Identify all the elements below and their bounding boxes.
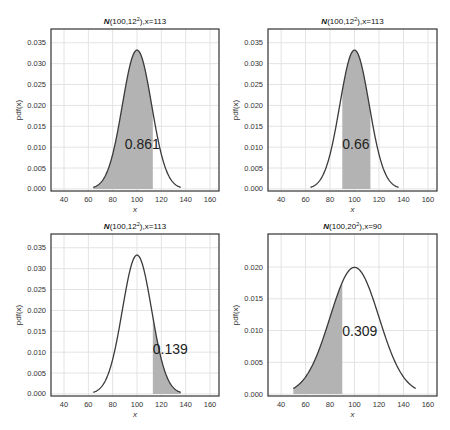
- y-tick-label: 0.020: [27, 306, 46, 315]
- x-tick-label: 80: [326, 195, 334, 204]
- chart-panel-3: 4060801001201401600.0000.0050.0100.0150.…: [14, 221, 219, 419]
- title-tail: ),x=90: [359, 222, 382, 231]
- y-tick-label: 0.005: [27, 164, 46, 173]
- title-tail: ),x=113: [140, 222, 167, 231]
- x-axis-label: x: [132, 205, 138, 214]
- y-tick-label: 0.025: [27, 285, 46, 294]
- axes-frame: [268, 234, 437, 396]
- x-tick-label: 160: [204, 195, 217, 204]
- x-tick-label: 120: [155, 400, 168, 409]
- y-tick-label: 0.005: [244, 164, 263, 173]
- chart-panel-2: 4060801001201401600.0000.0050.0100.0150.…: [231, 16, 437, 214]
- y-axis-label: pdf(x): [14, 99, 23, 120]
- x-axis-label: x: [350, 410, 356, 419]
- y-tick-label: 0.000: [244, 184, 263, 193]
- y-tick-label: 0.025: [244, 80, 263, 89]
- x-tick-label: 140: [179, 195, 192, 204]
- title-tail: ),x=113: [140, 17, 167, 26]
- figure: 4060801001201401600.0000.0050.0100.0150.…: [0, 0, 450, 430]
- x-tick-label: 120: [155, 195, 168, 204]
- y-tick-label: 0.010: [27, 348, 46, 357]
- y-tick-label: 0.000: [244, 390, 263, 399]
- chart-title: N(100,122),x=113: [104, 16, 167, 26]
- y-tick-label: 0.035: [244, 38, 263, 47]
- x-tick-label: 40: [60, 400, 68, 409]
- x-tick-label: 160: [422, 400, 435, 409]
- chart-panel-4: 4060801001201401600.0000.0050.0100.0150.…: [231, 221, 437, 419]
- chart-title: N(100,202),x=90: [323, 221, 382, 231]
- x-tick-label: 40: [277, 400, 285, 409]
- x-tick-label: 160: [422, 195, 435, 204]
- x-axis-label: x: [132, 410, 138, 419]
- y-tick-label: 0.035: [27, 243, 46, 252]
- x-tick-label: 80: [109, 400, 117, 409]
- title-args: (100,20: [329, 222, 357, 231]
- y-axis-label: pdf(x): [14, 304, 23, 325]
- y-tick-label: 0.030: [27, 59, 46, 68]
- y-tick-label: 0.010: [244, 326, 263, 335]
- title-args: (100,12: [327, 17, 355, 26]
- x-tick-label: 160: [204, 400, 217, 409]
- y-tick-label: 0.010: [244, 143, 263, 152]
- probability-annotation: 0.309: [342, 323, 377, 339]
- y-axis-label: pdf(x): [231, 99, 240, 120]
- x-tick-label: 120: [373, 400, 386, 409]
- y-tick-label: 0.015: [244, 294, 263, 303]
- chart-grid-2x2: 4060801001201401600.0000.0050.0100.0150.…: [0, 0, 450, 430]
- chart-title: N(100,122),x=113: [104, 221, 167, 231]
- x-tick-label: 140: [179, 400, 192, 409]
- axes-frame: [51, 234, 219, 396]
- x-axis-label: x: [350, 205, 356, 214]
- y-tick-label: 0.015: [27, 327, 46, 336]
- y-tick-label: 0.015: [244, 122, 263, 131]
- y-tick-label: 0.005: [27, 369, 46, 378]
- y-tick-label: 0.000: [27, 389, 46, 398]
- y-tick-label: 0.005: [244, 358, 263, 367]
- y-tick-label: 0.015: [27, 122, 46, 131]
- title-args: (100,12: [110, 17, 138, 26]
- x-tick-label: 80: [109, 195, 117, 204]
- y-tick-label: 0.010: [27, 143, 46, 152]
- x-tick-label: 60: [301, 195, 309, 204]
- y-axis-label: pdf(x): [231, 304, 240, 325]
- x-tick-label: 100: [348, 400, 361, 409]
- x-tick-label: 140: [397, 400, 410, 409]
- y-tick-label: 0.020: [27, 101, 46, 110]
- title-tail: ),x=113: [357, 17, 384, 26]
- y-tick-label: 0.030: [27, 264, 46, 273]
- y-tick-label: 0.020: [244, 101, 263, 110]
- x-tick-label: 60: [84, 195, 92, 204]
- probability-annotation: 0.861: [125, 136, 160, 152]
- probability-annotation: 0.66: [342, 136, 369, 152]
- x-tick-label: 100: [348, 195, 361, 204]
- x-tick-label: 40: [277, 195, 285, 204]
- x-tick-label: 120: [373, 195, 386, 204]
- x-tick-label: 100: [131, 400, 144, 409]
- x-tick-label: 40: [60, 195, 68, 204]
- y-tick-label: 0.030: [244, 59, 263, 68]
- x-tick-label: 140: [397, 195, 410, 204]
- chart-panel-1: 4060801001201401600.0000.0050.0100.0150.…: [14, 16, 219, 214]
- x-tick-label: 80: [326, 400, 334, 409]
- probability-annotation: 0.139: [153, 341, 188, 357]
- x-tick-label: 100: [131, 195, 144, 204]
- y-tick-label: 0.000: [27, 184, 46, 193]
- y-tick-label: 0.025: [27, 80, 46, 89]
- y-tick-label: 0.035: [27, 38, 46, 47]
- title-args: (100,12: [110, 222, 138, 231]
- y-tick-label: 0.020: [244, 263, 263, 272]
- x-tick-label: 60: [84, 400, 92, 409]
- x-tick-label: 60: [301, 400, 309, 409]
- chart-title: N(100,122),x=113: [321, 16, 384, 26]
